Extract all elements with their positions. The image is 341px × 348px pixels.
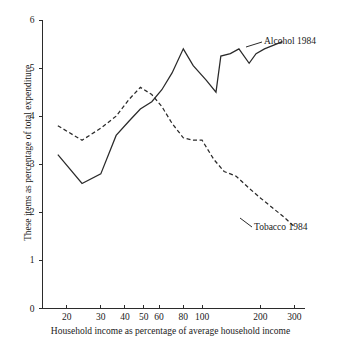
y-axis-title: These items as percentage of total expen… [23,23,33,283]
x-tick-label: 20 [54,312,80,322]
x-axis-title: Household income as percentage of averag… [0,326,341,336]
x-axis-ticks [67,305,295,309]
chart-figure: 0123456 203040506080100200300 Alcohol 19… [0,0,341,348]
x-tick-label: 30 [88,312,114,322]
x-tick-label: 60 [146,312,172,322]
annotation-leader-lines [240,42,262,227]
chart-plot-area [0,0,341,348]
x-tick-label: 300 [281,312,307,322]
x-tick-label: 200 [247,312,273,322]
series-annotation-tobacco: Tobacco 1984 [254,222,307,233]
chart-series-lines [58,42,295,227]
series-line-alcohol [58,42,283,184]
y-tick-label: 0 [9,304,35,314]
alcohol-leader-line [246,42,262,47]
tobacco-leader-line [240,218,252,227]
series-annotation-alcohol: Alcohol 1984 [264,36,316,47]
chart-axes [43,20,306,309]
series-line-tobacco [58,87,295,226]
x-tick-label: 100 [189,312,215,322]
